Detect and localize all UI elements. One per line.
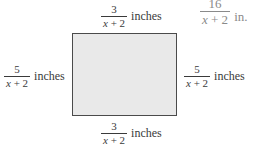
top-side-label: 3 x + 2 inches xyxy=(101,4,162,29)
left-fraction: 5 x + 2 xyxy=(4,64,30,89)
right-fraction: 5 x + 2 xyxy=(184,64,210,89)
corner-fraction: 16 x + 2 xyxy=(200,0,230,26)
left-side-label: 5 x + 2 inches xyxy=(4,64,65,89)
top-fraction: 3 x + 2 xyxy=(101,4,127,29)
bottom-fraction: 3 x + 2 xyxy=(101,121,127,146)
corner-label: 16 x + 2 in. xyxy=(200,0,248,26)
rectangle-shape xyxy=(72,33,177,116)
bottom-side-label: 3 x + 2 inches xyxy=(101,121,162,146)
right-side-label: 5 x + 2 inches xyxy=(184,64,245,89)
